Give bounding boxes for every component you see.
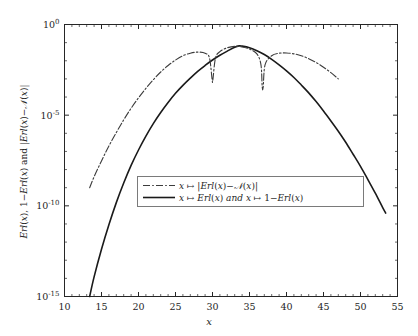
y-axis-label-wrapper: Erl(x), 1−Erl(x) and |Erl(x)−𝒩(x)| (12, 37, 31, 287)
figure-container: 10152025303540455055 10010-510-1010-15 x… (0, 0, 418, 336)
x-axis-tick-labels: 10152025303540455055 (58, 301, 403, 312)
x-tick-label: 15 (95, 301, 107, 312)
x-axis-label: x (0, 316, 418, 327)
x-tick-label: 35 (243, 301, 255, 312)
legend-label-erl: x ↦ Erl(x) and x ↦ 1−Erl(x) (179, 193, 303, 203)
x-tick-label: 45 (317, 301, 329, 312)
y-tick-label: 10-10 (36, 199, 59, 211)
x-tick-label: 30 (206, 301, 218, 312)
x-tick-label: 20 (132, 301, 144, 312)
x-tick-label: 25 (169, 301, 181, 312)
chart-legend[interactable]: x ↦ |Erl(x)−𝒩(x)| x ↦ Erl(x) and x ↦ 1−E… (138, 177, 364, 207)
plot-frame (65, 25, 398, 297)
y-axis-label: Erl(x), 1−Erl(x) and |Erl(x)−𝒩(x)| (19, 85, 30, 239)
x-tick-label: 40 (280, 301, 292, 312)
x-tick-label: 10 (58, 301, 70, 312)
y-tick-label: 10-5 (41, 109, 60, 121)
legend-label-difference: x ↦ |Erl(x)−𝒩(x)| (179, 181, 258, 192)
y-axis-tick-labels: 10010-510-1010-15 (36, 18, 59, 302)
y-tick-label: 100 (43, 18, 60, 30)
y-tick-label: 10-15 (36, 290, 59, 302)
chart-plot-area: 10152025303540455055 10010-510-1010-15 x… (0, 0, 418, 336)
x-tick-label: 50 (354, 301, 366, 312)
x-tick-label: 55 (391, 301, 403, 312)
